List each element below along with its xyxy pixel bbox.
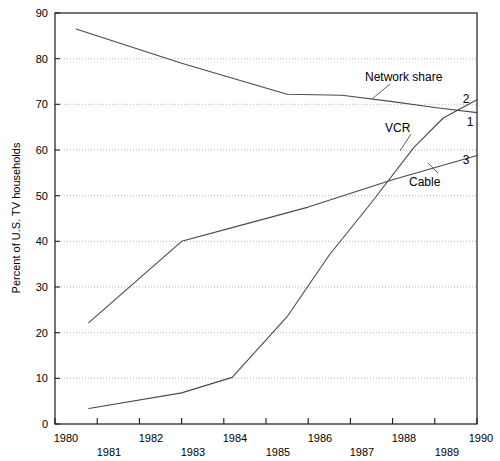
y-tick-label-20: 20 <box>36 327 48 339</box>
y-axis-tick-labels: 90 80 70 60 50 40 30 20 10 0 <box>36 7 48 430</box>
chart-container: 90 80 70 60 50 40 30 20 10 0 Percent of … <box>0 0 500 461</box>
leader-line-cable <box>428 163 438 173</box>
end-marker-cable: 3 <box>463 153 470 167</box>
y-tick-label-90: 90 <box>36 7 48 19</box>
y-tick-label-70: 70 <box>36 98 48 110</box>
y-tick-label-80: 80 <box>36 53 48 65</box>
series-label-network-share: Network share <box>365 70 443 84</box>
x-axis-tick-labels-top: 1980 1982 1984 1986 1988 1990 <box>54 432 493 444</box>
y-tick-label-30: 30 <box>36 281 48 293</box>
y-tick-label-0: 0 <box>42 418 48 430</box>
series-label-vcr: VCR <box>385 121 411 135</box>
y-axis-ticks <box>55 13 60 424</box>
y-axis-title: Percent of U.S. TV households <box>10 142 22 293</box>
end-marker-vcr: 2 <box>463 92 470 106</box>
y-tick-label-10: 10 <box>36 372 48 384</box>
x-tick-label-1980: 1980 <box>54 432 78 444</box>
y-tick-label-50: 50 <box>36 190 48 202</box>
x-tick-label-1989: 1989 <box>435 446 459 458</box>
x-tick-label-1990: 1990 <box>469 432 493 444</box>
x-tick-label-1982: 1982 <box>139 432 163 444</box>
end-marker-network-share: 1 <box>467 115 474 129</box>
leader-line-vcr <box>400 134 411 151</box>
x-axis-ticks <box>55 418 477 424</box>
leader-line-network-share <box>372 84 390 99</box>
series-line-vcr <box>89 100 477 409</box>
x-axis-tick-labels-bottom: 1981 1983 1985 1987 1989 <box>97 446 459 458</box>
x-tick-label-1988: 1988 <box>392 432 416 444</box>
x-tick-label-1986: 1986 <box>308 432 332 444</box>
x-tick-label-1981: 1981 <box>97 446 121 458</box>
series-label-cable: Cable <box>409 175 441 189</box>
x-tick-label-1987: 1987 <box>350 446 374 458</box>
x-tick-label-1983: 1983 <box>181 446 205 458</box>
y-tick-label-40: 40 <box>36 235 48 247</box>
line-chart: 90 80 70 60 50 40 30 20 10 0 Percent of … <box>0 0 500 461</box>
x-tick-label-1985: 1985 <box>266 446 290 458</box>
y-tick-label-60: 60 <box>36 144 48 156</box>
x-tick-label-1984: 1984 <box>223 432 247 444</box>
